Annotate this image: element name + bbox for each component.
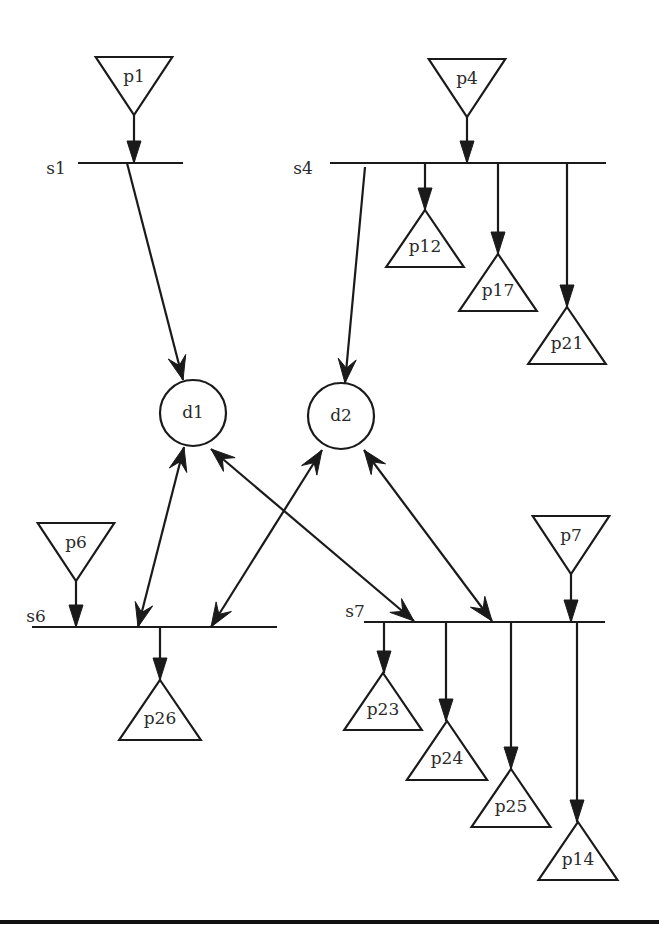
device-node-d2[interactable]: d2: [308, 383, 374, 449]
arrow-shaft: [138, 447, 184, 627]
arrow-s4-to-p17: [491, 163, 505, 254]
sink-node-p17[interactable]: p17: [459, 254, 537, 311]
arrow-s4-to-p21: [560, 163, 574, 307]
sink-label: p24: [431, 748, 464, 768]
arrow-s4-to-p12: [418, 163, 432, 210]
arrow-shaft: [345, 167, 365, 383]
switch-buses: s1s4s6s7: [26, 158, 606, 628]
arrow-s7-to-p14: [570, 622, 584, 822]
arrowhead-icon: [211, 602, 231, 627]
arrow-shaft: [211, 450, 322, 627]
sink-node-p12[interactable]: p12: [386, 210, 464, 267]
switch-s1[interactable]: s1: [46, 158, 183, 178]
arrow-s1-to-d1: [127, 163, 186, 380]
source-node-p6[interactable]: p6: [38, 523, 115, 581]
arrowhead-icon: [127, 141, 141, 163]
arrow-d1-to-s6: [135, 447, 187, 627]
device-label: d2: [330, 405, 352, 425]
sink-label: p12: [409, 236, 442, 256]
switch-label: s1: [46, 158, 66, 178]
sink-label: p23: [367, 699, 400, 719]
arrow-s7-to-p24: [439, 622, 453, 721]
network-diagram: s1s4s6s7 p1p4p6p7 p12p17p21p26p23p24p25p…: [0, 0, 659, 935]
device-label: d1: [182, 402, 204, 422]
sink-label: p21: [551, 333, 584, 353]
switch-label: s7: [345, 601, 365, 621]
arrow-p1-to-s1: [127, 115, 141, 163]
switch-label: s4: [293, 158, 313, 178]
arrow-s7-to-p25: [504, 622, 518, 769]
arrow-p6-to-s6: [69, 581, 83, 627]
arrowhead-icon: [564, 600, 578, 622]
arrowhead-icon: [460, 141, 474, 163]
source-node-p7[interactable]: p7: [533, 516, 610, 574]
sink-label: p14: [562, 849, 595, 869]
source-label: p4: [456, 68, 478, 88]
sink-node-p23[interactable]: p23: [344, 673, 422, 730]
arrowhead-icon: [69, 605, 83, 627]
arrow-s7-to-p23: [377, 622, 391, 673]
sink-label: p25: [495, 796, 528, 816]
arrowhead-icon: [153, 658, 167, 680]
arrow-s6-to-p26: [153, 627, 167, 680]
source-node-p4[interactable]: p4: [429, 59, 506, 117]
arrow-d2-to-s6: [211, 450, 322, 627]
sink-label: p17: [482, 280, 515, 300]
source-label: p1: [123, 66, 145, 86]
arrowhead-icon: [418, 188, 432, 210]
arrowhead-icon: [491, 232, 505, 254]
source-label: p6: [65, 532, 87, 552]
sink-label: p26: [144, 708, 177, 728]
arrowhead-icon: [470, 596, 492, 621]
arrow-s4-to-d2: [338, 167, 365, 383]
device-nodes: d1d2: [160, 380, 374, 449]
arrowhead-icon: [570, 800, 584, 822]
arrowhead-icon: [439, 699, 453, 721]
arrowhead-icon: [504, 747, 518, 769]
device-node-d1[interactable]: d1: [160, 380, 226, 446]
arrow-p7-to-s7: [564, 574, 578, 622]
source-label: p7: [560, 525, 582, 545]
sink-node-p14[interactable]: p14: [539, 822, 618, 880]
sink-nodes: p12p17p21p26p23p24p25p14: [119, 210, 617, 880]
arrowhead-icon: [364, 450, 386, 475]
switch-s4[interactable]: s4: [293, 158, 606, 178]
sink-node-p26[interactable]: p26: [119, 680, 201, 740]
arrow-p4-to-s4: [460, 117, 474, 163]
bottom-rule: [0, 920, 659, 924]
source-node-p1[interactable]: p1: [96, 57, 173, 115]
arrowhead-icon: [560, 285, 574, 307]
arrow-shaft: [127, 163, 183, 380]
arrowhead-icon: [302, 450, 322, 475]
sink-node-p21[interactable]: p21: [528, 307, 606, 364]
switch-s6[interactable]: s6: [26, 606, 277, 628]
source-nodes: p1p4p6p7: [38, 57, 610, 581]
arrowhead-icon: [377, 651, 391, 673]
switch-label: s6: [26, 606, 46, 626]
